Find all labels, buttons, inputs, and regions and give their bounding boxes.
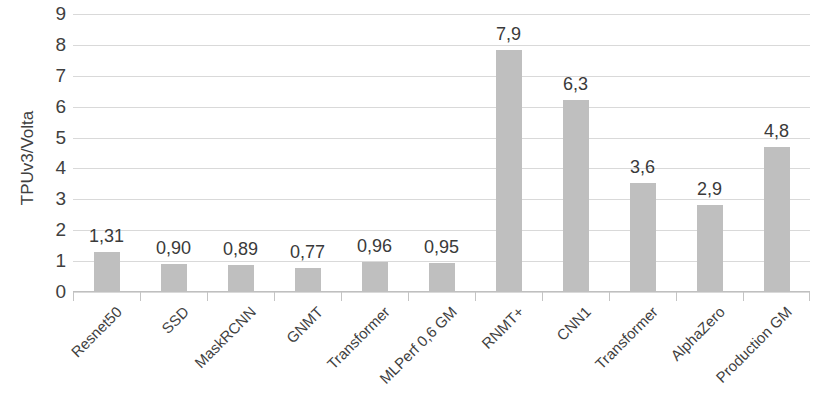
x-axis-tick (408, 292, 409, 301)
bar-value-label: 3,6 (611, 158, 675, 176)
x-axis-tick (743, 292, 744, 301)
x-axis-tick (676, 292, 677, 301)
x-axis-ticks (73, 292, 810, 301)
gridline (73, 76, 810, 77)
y-axis-tick-label: 5 (38, 128, 66, 147)
bar (764, 147, 790, 292)
y-axis-tick-label: 6 (38, 97, 66, 116)
bar-value-label: 2,9 (678, 180, 742, 198)
y-axis-tick-label: 0 (38, 282, 66, 301)
bar (161, 264, 187, 292)
bar (697, 205, 723, 292)
y-axis-tick-labels: 9876543210 (28, 0, 66, 407)
bar (496, 50, 522, 292)
bar (295, 268, 321, 292)
y-axis-tick-label: 1 (38, 251, 66, 270)
y-axis-tick-label: 4 (38, 158, 66, 177)
gridline (73, 107, 810, 108)
plot-area: 1,310,900,890,770,960,957,96,33,62,94,8 (73, 14, 810, 292)
bar (563, 100, 589, 292)
bar-value-label: 4,8 (745, 122, 809, 140)
x-axis-tick (341, 292, 342, 301)
y-axis-tick-label: 2 (38, 220, 66, 239)
x-axis-tick (809, 292, 810, 301)
gridline (73, 199, 810, 200)
gridline (73, 14, 810, 15)
bar (228, 265, 254, 292)
x-axis-tick (73, 292, 74, 301)
y-axis-tick-label: 3 (38, 189, 66, 208)
gridline (73, 168, 810, 169)
bar-value-label: 0,95 (410, 238, 474, 256)
y-axis-tick-label: 7 (38, 66, 66, 85)
bar (630, 183, 656, 292)
bar-value-label: 0,96 (343, 237, 407, 255)
bar-value-label: 7,9 (477, 25, 541, 43)
gridline (73, 138, 810, 139)
x-axis-category-labels: Resnet50SSDMaskRCNNGNMTTransformerMLPerf… (73, 303, 810, 407)
bar-value-label: 0,90 (142, 239, 206, 257)
x-axis-tick (207, 292, 208, 301)
bar-value-label: 1,31 (75, 227, 139, 245)
gridline (73, 45, 810, 46)
bar-value-label: 0,77 (276, 243, 340, 261)
y-axis-tick-label: 8 (38, 35, 66, 54)
bar-value-label: 0,89 (209, 240, 273, 258)
x-axis-tick (542, 292, 543, 301)
bar (94, 252, 120, 292)
bar (362, 262, 388, 292)
bar-chart: TPUv3/Volta 9876543210 1,310,900,890,770… (0, 0, 815, 407)
x-axis-tick (140, 292, 141, 301)
x-axis-tick (274, 292, 275, 301)
x-axis-tick (609, 292, 610, 301)
bar (429, 263, 455, 292)
y-axis-tick-label: 9 (38, 4, 66, 23)
x-axis-tick (475, 292, 476, 301)
bar-value-label: 6,3 (544, 75, 608, 93)
